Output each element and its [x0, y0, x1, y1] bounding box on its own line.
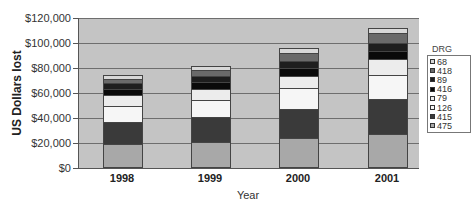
y-tick-label: $0 [59, 162, 71, 174]
bar-segment-drg-79 [279, 77, 319, 89]
y-tick-mark [73, 68, 78, 69]
legend-swatch [430, 123, 435, 128]
y-tick-label: $120,000 [25, 12, 71, 24]
legend: 684188941679126415475 [427, 55, 471, 133]
legend-swatch [430, 59, 435, 64]
bar-segment-drg-475 [103, 145, 143, 168]
bar-segment-drg-79 [191, 90, 231, 101]
bar-segment-drg-416 [368, 52, 408, 61]
y-tick-label: $20,000 [31, 137, 71, 149]
bar-1998 [103, 75, 143, 168]
gridline [79, 18, 419, 19]
bar-segment-drg-126 [103, 107, 143, 123]
y-tick-mark [73, 93, 78, 94]
legend-item: 416 [430, 85, 468, 94]
bar-segment-drg-475 [191, 143, 231, 168]
bar-2000 [279, 48, 319, 168]
legend-swatch [430, 96, 435, 101]
legend-swatch [430, 105, 435, 110]
legend-swatch [430, 87, 435, 92]
x-tick-label: 1998 [110, 172, 134, 184]
bar-segment-drg-126 [368, 76, 408, 100]
bar-segment-drg-475 [279, 139, 319, 168]
bar-segment-drg-415 [103, 123, 143, 145]
legend-item: 418 [430, 66, 468, 75]
bar-segment-drg-89 [368, 44, 408, 52]
y-tick-mark [73, 18, 78, 19]
bar-1999 [191, 66, 231, 168]
y-tick-label: $100,000 [25, 37, 71, 49]
bar-segment-drg-415 [191, 118, 231, 143]
y-tick-label: $60,000 [31, 87, 71, 99]
legend-swatch [430, 114, 435, 119]
x-tick-label: 2001 [375, 172, 399, 184]
legend-swatch [430, 68, 435, 73]
bar-2001 [368, 28, 408, 168]
legend-item: 475 [430, 121, 468, 130]
x-tick-label: 1999 [198, 172, 222, 184]
bar-segment-drg-418 [279, 54, 319, 62]
y-tick-mark [73, 143, 78, 144]
bar-segment-drg-418 [368, 34, 408, 44]
bar-segment-drg-79 [368, 60, 408, 76]
bar-segment-drg-475 [368, 135, 408, 168]
x-axis-label: Year [237, 189, 259, 201]
y-tick-label: $40,000 [31, 112, 71, 124]
y-tick-mark [73, 168, 78, 169]
bar-segment-drg-415 [368, 100, 408, 135]
bar-segment-drg-126 [191, 101, 231, 118]
x-tick-label: 2000 [286, 172, 310, 184]
bar-segment-drg-416 [279, 69, 319, 77]
legend-title: DRG [432, 44, 452, 54]
bar-segment-drg-415 [279, 110, 319, 139]
plot-area [78, 18, 419, 169]
y-tick-mark [73, 43, 78, 44]
bar-segment-drg-89 [279, 62, 319, 69]
y-axis-label: US Dollars lost [10, 50, 24, 135]
bar-segment-drg-126 [279, 89, 319, 110]
bar-segment-drg-79 [103, 96, 143, 107]
bar-segment-drg-416 [191, 83, 231, 90]
chart-root: US Dollars lost Year DRG 684188941679126… [0, 0, 476, 207]
y-tick-mark [73, 118, 78, 119]
legend-swatch [430, 77, 435, 82]
legend-label: 475 [437, 121, 452, 131]
y-tick-label: $80,000 [31, 62, 71, 74]
